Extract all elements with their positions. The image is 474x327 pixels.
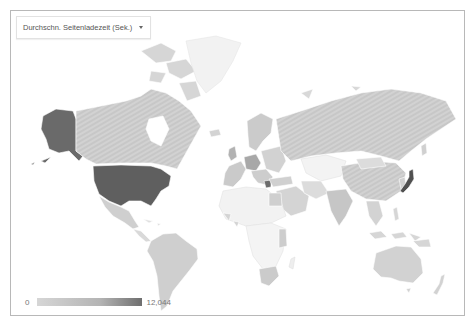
legend-gradient-bar [37,298,142,306]
region-central-america[interactable] [133,229,151,242]
region-india[interactable] [326,189,353,226]
region-south-africa[interactable] [259,266,279,286]
region-australia[interactable] [373,246,423,283]
region-russia[interactable] [276,89,456,161]
region-southeast-asia[interactable] [366,201,383,226]
region-east-africa[interactable] [279,229,287,248]
color-legend: 0 12,044 [25,296,171,308]
legend-max-label: 12,044 [146,298,170,307]
region-caribbean[interactable] [143,219,161,226]
metric-dropdown-label: Durchschn. Seitenladezeit (Sek.) [23,23,132,32]
region-kamchatka [421,143,427,156]
region-canada[interactable] [76,89,201,169]
region-indonesia[interactable] [369,231,421,241]
region-scandinavia[interactable] [247,113,273,151]
region-iceland[interactable] [209,129,221,137]
metric-dropdown[interactable]: Durchschn. Seitenladezeit (Sek.) [16,16,151,39]
region-germany[interactable] [244,154,261,171]
region-aleutians [31,157,51,165]
region-madagascar[interactable] [289,257,295,269]
legend-min-label: 0 [25,298,29,307]
chevron-down-icon [139,26,143,29]
region-uk[interactable] [228,146,237,161]
region-france-iberia[interactable] [223,161,246,187]
world-map[interactable] [11,11,466,317]
geo-map-panel: Durchschn. Seitenladezeit (Sek.) 0 12,04… [10,10,465,316]
region-kazakhstan[interactable] [301,155,346,181]
region-egypt[interactable] [269,193,282,206]
region-new-zealand[interactable] [433,274,445,295]
region-tasmania[interactable] [406,288,411,293]
region-philippines[interactable] [393,207,399,221]
